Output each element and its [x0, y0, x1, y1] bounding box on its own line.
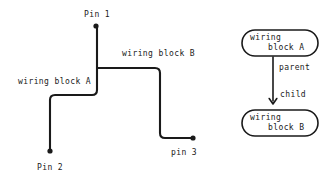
node-wiring-block-b-label: wiring block B — [250, 113, 305, 133]
pin-3-label: pin 3 — [171, 148, 197, 158]
wire-path-block-a — [50, 27, 97, 151]
edge-label-parent: parent — [279, 63, 310, 73]
node-wiring-block-a-label: wiring block A — [250, 33, 305, 53]
pin-1-label: Pin 1 — [84, 10, 110, 20]
pin-3-terminal-dot — [190, 135, 195, 140]
edge-label-child: child — [280, 90, 306, 100]
pin-2-label: Pin 2 — [37, 163, 63, 173]
node-wiring-block-a-line1: wiring — [250, 33, 281, 42]
pin-1-terminal-dot — [93, 23, 98, 28]
wiring-block-b-label: wiring block B — [122, 49, 195, 59]
node-wiring-block-b-line2: block B — [250, 123, 305, 133]
node-wiring-block-b-line1: wiring — [250, 113, 281, 122]
wiring-block-a-label: wiring block A — [18, 77, 91, 87]
node-wiring-block-a-line2: block A — [250, 43, 305, 53]
diagram-canvas: Pin 1 Pin 2 pin 3 wiring block A wiring … — [0, 0, 335, 179]
wire-path-block-b — [97, 68, 192, 138]
pin-2-terminal-dot — [47, 148, 52, 153]
